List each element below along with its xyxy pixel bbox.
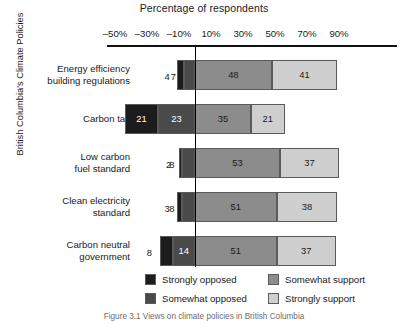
category-label-line2: building regulations xyxy=(0,75,130,87)
category-label-line2: government xyxy=(0,251,130,263)
figure-caption: Figure 3.1 Views on climate policies in … xyxy=(0,312,408,321)
x-tick-label: 70% xyxy=(297,28,316,39)
legend-item[interactable]: Somewhat support xyxy=(268,274,365,285)
category-label-line1: Low carbon xyxy=(0,151,130,163)
x-tick-label: 10% xyxy=(201,28,220,39)
stacked-bar: 4841 xyxy=(177,60,337,90)
segment-value-outside: 4 xyxy=(164,71,169,82)
legend-swatch xyxy=(145,293,156,304)
legend-label: Strongly support xyxy=(285,293,355,304)
x-axis-title: Percentage of respondents xyxy=(0,2,408,14)
bar-segment-strongly-support: 37 xyxy=(280,148,339,178)
segment-value: 41 xyxy=(299,70,309,79)
segment-value-outside: 8 xyxy=(169,159,174,170)
bar-segment-somewhat-opposed xyxy=(184,60,195,90)
x-tick-label: –50% xyxy=(103,28,128,39)
stacked-bar: 145137 xyxy=(160,236,336,266)
segment-value-outside: 8 xyxy=(147,247,152,258)
segment-value: 53 xyxy=(232,158,242,167)
bar-segment-somewhat-opposed xyxy=(182,192,195,222)
segment-value: 51 xyxy=(231,246,241,255)
category-label: Carbon neutralgovernment xyxy=(0,239,130,262)
category-label-line2: fuel standard xyxy=(0,163,130,175)
segment-value: 23 xyxy=(171,114,181,123)
x-axis-line xyxy=(107,45,397,47)
bar-segment-somewhat-opposed xyxy=(182,148,195,178)
stacked-bar: 21233521 xyxy=(125,104,285,134)
legend-item[interactable]: Somewhat opposed xyxy=(145,293,247,304)
bar-rows: Energy efficiencybuilding regulations474… xyxy=(0,50,408,270)
bar-segment-strongly-support: 37 xyxy=(277,236,336,266)
bar-segment-somewhat-support: 35 xyxy=(195,104,251,134)
zero-reference-line xyxy=(195,45,197,267)
segment-value: 35 xyxy=(218,114,228,123)
bar-segment-somewhat-opposed: 23 xyxy=(158,104,195,134)
bar-segment-somewhat-support: 48 xyxy=(195,60,272,90)
segment-value: 21 xyxy=(263,114,273,123)
legend: Strongly opposedSomewhat opposedSomewhat… xyxy=(0,272,408,308)
legend-label: Strongly opposed xyxy=(162,274,237,285)
legend-label: Somewhat support xyxy=(285,274,365,285)
bar-segment-strongly-support: 41 xyxy=(272,60,338,90)
segment-value: 37 xyxy=(304,158,314,167)
segment-value: 48 xyxy=(228,70,238,79)
stacked-bar: 5138 xyxy=(177,192,337,222)
x-tick-label: –10% xyxy=(167,28,192,39)
bar-row: Carbon neutralgovernment8145137 xyxy=(0,230,408,274)
segment-value: 37 xyxy=(301,246,311,255)
x-tick-label: –30% xyxy=(135,28,160,39)
x-tick-label: 30% xyxy=(233,28,252,39)
segment-value-outside: 8 xyxy=(169,203,174,214)
category-label-line1: Carbon tax xyxy=(0,113,130,125)
category-label-line1: Carbon neutral xyxy=(0,239,130,251)
bar-row: Low carbonfuel standard285337 xyxy=(0,142,408,186)
category-label: Clean electricitystandard xyxy=(0,195,130,218)
legend-item[interactable]: Strongly opposed xyxy=(145,274,237,285)
legend-label: Somewhat opposed xyxy=(162,293,247,304)
category-label-line1: Clean electricity xyxy=(0,195,130,207)
legend-swatch xyxy=(268,293,279,304)
bar-segment-somewhat-support: 51 xyxy=(195,192,277,222)
chart-container: Percentage of respondents British Columb… xyxy=(0,0,408,321)
legend-swatch xyxy=(268,274,279,285)
category-label: Energy efficiencybuilding regulations xyxy=(0,63,130,86)
segment-value: 51 xyxy=(231,202,241,211)
x-axis-tick-row: –50%–30%–10%10%30%50%70%90% xyxy=(0,28,408,42)
stacked-bar: 5337 xyxy=(179,148,339,178)
x-tick-label: 90% xyxy=(329,28,348,39)
bar-row: Energy efficiencybuilding regulations474… xyxy=(0,54,408,98)
bar-segment-strongly-opposed xyxy=(160,236,173,266)
category-label: Low carbonfuel standard xyxy=(0,151,130,174)
legend-swatch xyxy=(145,274,156,285)
segment-value: 21 xyxy=(136,114,146,123)
segment-value: 14 xyxy=(179,246,189,255)
bar-segment-somewhat-opposed: 14 xyxy=(173,236,195,266)
category-label-line2: standard xyxy=(0,207,130,219)
segment-value: 38 xyxy=(302,202,312,211)
bar-segment-strongly-support: 21 xyxy=(251,104,285,134)
bar-segment-somewhat-support: 51 xyxy=(195,236,277,266)
category-label-line1: Energy efficiency xyxy=(0,63,130,75)
bar-segment-somewhat-support: 53 xyxy=(195,148,280,178)
bar-segment-strongly-opposed: 21 xyxy=(125,104,159,134)
bar-segment-strongly-support: 38 xyxy=(277,192,338,222)
bar-row: Clean electricitystandard385138 xyxy=(0,186,408,230)
segment-value-outside: 7 xyxy=(171,71,176,82)
x-tick-label: 50% xyxy=(265,28,284,39)
category-label: Carbon tax xyxy=(0,113,130,125)
legend-item[interactable]: Strongly support xyxy=(268,293,355,304)
bar-row: Carbon tax21233521 xyxy=(0,98,408,142)
